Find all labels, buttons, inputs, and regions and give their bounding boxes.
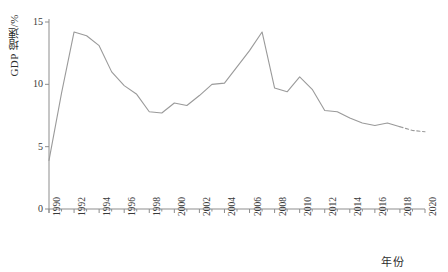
x-tick-label-2014: 2014 [354, 197, 364, 216]
x-tick-label-2008: 2008 [279, 197, 289, 216]
x-tick-label-2000: 2000 [178, 197, 188, 216]
x-tick-label-1998: 1998 [153, 197, 163, 216]
series-line-0 [49, 32, 400, 160]
x-tick-label-1996: 1996 [128, 197, 138, 216]
y-tick-label-5: 5 [23, 142, 43, 152]
chart-axes [45, 19, 425, 213]
x-tick-label-2020: 2020 [429, 197, 439, 216]
gdp-growth-line-chart: GDP 增速/% 年份 051015 199019921994199619982… [0, 0, 448, 272]
series-line-1 [400, 127, 425, 132]
x-tick-label-2012: 2012 [329, 197, 339, 216]
x-tick-label-1990: 1990 [53, 197, 63, 216]
x-tick-label-1992: 1992 [78, 197, 88, 216]
chart-series-group [49, 32, 425, 160]
y-tick-label-10: 10 [23, 79, 43, 89]
x-tick-label-2004: 2004 [228, 197, 238, 216]
y-tick-label-15: 15 [23, 17, 43, 27]
x-tick-label-1994: 1994 [103, 197, 113, 216]
x-tick-label-2002: 2002 [203, 197, 213, 216]
x-tick-label-2006: 2006 [254, 197, 264, 216]
x-tick-label-2018: 2018 [404, 197, 414, 216]
chart-plot-area [0, 0, 448, 272]
x-tick-label-2010: 2010 [304, 197, 314, 216]
y-axis-title: GDP 增速/% [6, 14, 20, 77]
y-axis-ticks [45, 22, 49, 209]
y-tick-label-0: 0 [23, 204, 43, 214]
x-axis-title: 年份 [381, 253, 404, 269]
x-tick-label-2016: 2016 [379, 197, 389, 216]
